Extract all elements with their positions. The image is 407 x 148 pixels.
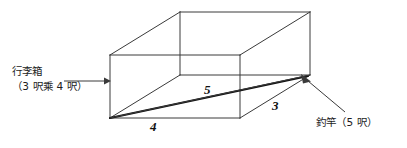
box-edge-depth-top-right (240, 12, 310, 55)
dimension-label-diagonal: 5 (204, 82, 211, 98)
box-edge-depth-top-left (110, 12, 180, 55)
dimension-label-width: 4 (150, 119, 157, 135)
suitcase-name: 行李箱 (12, 64, 87, 78)
box-wireframe (110, 12, 310, 118)
suitcase-label: 行李箱 （3 呎乘 4 呎） (12, 64, 87, 93)
rod-pointer-shaft (308, 81, 345, 112)
rod-pointer (301, 74, 345, 112)
dimension-label-depth: 3 (272, 98, 279, 114)
suitcase-size: （3 呎乘 4 呎） (12, 79, 87, 93)
rod-label: 釣竿（5 呎） (316, 115, 377, 129)
